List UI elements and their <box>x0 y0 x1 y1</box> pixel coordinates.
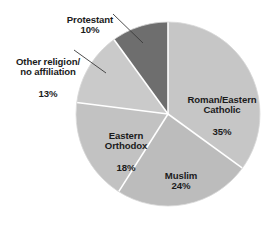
slice-label-protestant: Protestant 10% <box>48 4 132 47</box>
slice-label-catholic-line1: Roman/Eastern <box>187 94 256 105</box>
slice-label-protestant-name: Protestant <box>67 14 113 25</box>
slice-label-catholic: Roman/Eastern Catholic 35% <box>174 84 270 148</box>
slice-label-catholic-value: 35% <box>174 127 270 138</box>
slice-label-other-religion: Other religion/ no affiliation 13% <box>0 46 96 110</box>
slice-label-orthodox-line1: Eastern <box>109 130 144 141</box>
slice-label-other-religion-line2: no affiliation <box>0 67 96 78</box>
slice-label-catholic-line2: Catholic <box>174 105 270 116</box>
slice-label-orthodox-line2: Orthodox <box>88 141 164 152</box>
slice-label-muslim-value: 24% <box>146 181 216 192</box>
slice-label-other-religion-line1: Other religion/ <box>16 56 80 67</box>
slice-label-muslim: Muslim 24% <box>146 160 216 203</box>
slice-label-protestant-value: 10% <box>48 25 132 36</box>
slice-label-other-religion-value: 13% <box>0 89 96 100</box>
pie-chart-figure: Protestant 10% Other religion/ no affili… <box>0 0 277 225</box>
slice-label-muslim-name: Muslim <box>165 170 197 181</box>
